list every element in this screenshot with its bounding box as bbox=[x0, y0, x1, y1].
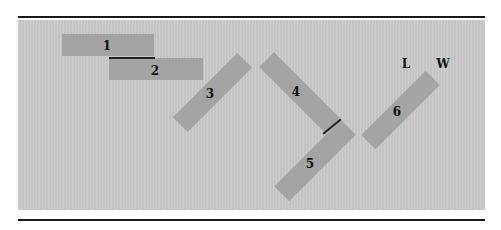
rectangle-6-label: 6 bbox=[393, 106, 401, 118]
annotation-w: W bbox=[436, 58, 449, 70]
shapes-layer: 123456LW bbox=[0, 0, 501, 230]
joint-1-2-line bbox=[109, 57, 155, 59]
rectangle-5 bbox=[274, 119, 355, 200]
rectangle-5-label: 5 bbox=[306, 158, 314, 170]
rectangle-4-label: 4 bbox=[292, 86, 300, 98]
rectangle-1-label: 1 bbox=[103, 40, 111, 52]
rectangle-3-label: 3 bbox=[206, 88, 214, 100]
rectangle-2-label: 2 bbox=[151, 65, 159, 77]
annotation-l: L bbox=[402, 58, 410, 70]
